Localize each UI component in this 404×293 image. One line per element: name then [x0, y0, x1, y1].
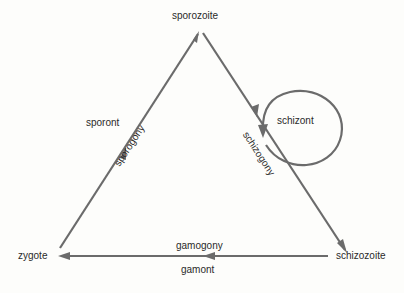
- gamogony-arrowhead-icon: [58, 252, 70, 260]
- diagram-canvas: sporozoite zygote schizozoite schizont s…: [0, 0, 404, 293]
- node-schizont: schizont: [277, 115, 314, 126]
- node-sporozoite: sporozoite: [172, 10, 218, 21]
- edge-gamont: gamont: [181, 264, 214, 275]
- edge-gamogony: gamogony: [176, 240, 223, 251]
- node-schizozoite: schizozoite: [336, 250, 385, 261]
- node-zygote: zygote: [18, 250, 47, 261]
- node-sporont: sporont: [86, 117, 119, 128]
- schizogony-line: [203, 33, 345, 250]
- schizont-loop: [263, 91, 342, 165]
